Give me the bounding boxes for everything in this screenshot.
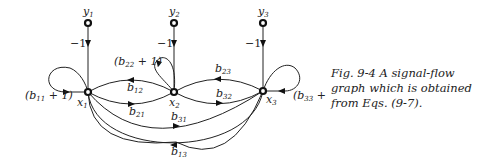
label-y1: y1 <box>82 5 94 19</box>
gain-y3-x3: −1 <box>245 37 261 50</box>
label-self-loop-x2: (b22 + 1) <box>114 55 162 69</box>
arrow-right-icon <box>216 100 223 106</box>
figure-caption: Fig. 9-4 A signal-flow graph which is ob… <box>331 66 491 111</box>
label-y2: y2 <box>168 5 180 19</box>
caption-line-1: Fig. 9-4 A signal-flow <box>331 66 491 81</box>
label-x2: x2 <box>169 96 180 110</box>
node-x2 <box>171 89 177 95</box>
node-y1 <box>85 20 91 26</box>
signal-flow-graph: y1 y2 y3 x1 x2 x3 −1 −1 −1 (b11 + 1) (b2… <box>0 0 330 160</box>
label-b23: b23 <box>215 62 232 76</box>
label-b12: b12 <box>127 81 144 95</box>
self-loop-x3 <box>263 65 300 91</box>
node-y2 <box>171 20 177 26</box>
label-self-loop-x1: (b11 + 1) <box>25 89 73 103</box>
label-self-loop-x3: (b33 + 1) <box>293 89 330 103</box>
caption-line-3: from Eqs. (9-7). <box>331 96 491 111</box>
arrow-left-icon <box>214 76 221 82</box>
node-y3 <box>260 20 266 26</box>
label-y3: y3 <box>257 5 269 19</box>
label-b13: b13 <box>171 145 188 159</box>
caption-line-2: graph which is obtained <box>331 81 491 96</box>
label-b21: b21 <box>129 105 145 119</box>
arrow-left-icon <box>278 88 285 94</box>
label-b31: b31 <box>171 110 187 124</box>
gain-y2-x2: −1 <box>157 37 173 50</box>
node-x1 <box>85 89 91 95</box>
label-x3: x3 <box>266 93 277 107</box>
label-b32: b32 <box>216 87 233 101</box>
gain-y1-x1: −1 <box>70 37 86 50</box>
label-x1: x1 <box>77 96 88 110</box>
